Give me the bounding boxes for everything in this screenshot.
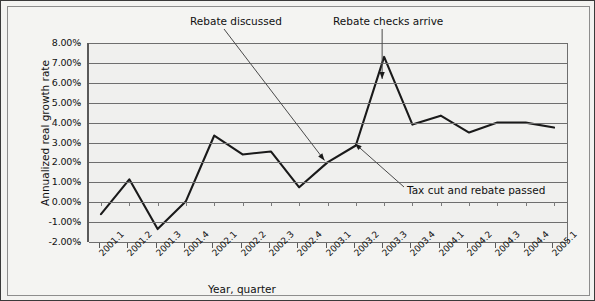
leader-rebate-discussed [224, 29, 325, 160]
annotation-leader-lines [8, 7, 591, 297]
chart-figure-frame: Annualized real growth rate 8.00%7.00%6.… [0, 0, 595, 301]
leader-tax-cut-and-rebate-passed [355, 143, 404, 187]
leader-rebate-checks-arrive [380, 29, 385, 79]
chart-inner-frame: Annualized real growth rate 8.00%7.00%6.… [7, 6, 590, 296]
